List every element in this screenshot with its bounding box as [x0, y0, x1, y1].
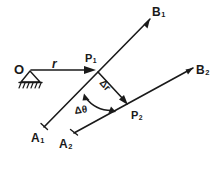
- label-point-p2-sub: 2: [138, 114, 142, 121]
- label-ray1-start-sub: 1: [40, 136, 45, 145]
- label-origin: O: [14, 63, 24, 76]
- support-hatch: [39, 83, 41, 88]
- label-point-p1-sub: 1: [92, 57, 96, 64]
- label-ray2-end-sub: 2: [205, 68, 210, 77]
- vector-r: [31, 66, 96, 74]
- physics-diagram: O r P1 P2 B1 B2 A1 A2 Δr Δθ: [0, 0, 220, 169]
- support-hatch: [19, 83, 21, 88]
- label-ray2-end-base: B: [196, 63, 205, 77]
- label-ray1-end-sub: 1: [161, 10, 166, 19]
- label-ray2-start-sub: 2: [68, 142, 73, 151]
- label-radius: r: [52, 58, 57, 70]
- arrowhead-r-icon: [84, 66, 96, 74]
- support-hatch: [27, 83, 29, 88]
- label-delta-theta: Δθ: [74, 104, 88, 116]
- label-ray1-start-a1: A1: [31, 132, 44, 145]
- label-point-p1: P1: [85, 53, 97, 65]
- support-hatch: [31, 83, 33, 88]
- label-ray1-start-base: A: [31, 131, 40, 145]
- label-ray2-end-b2: B2: [196, 64, 209, 77]
- arrowhead-b2-icon: [186, 68, 194, 75]
- label-ray1-end-b1: B1: [152, 6, 165, 19]
- label-ray1-end-base: B: [152, 5, 161, 19]
- angle-arc-delta-theta: [83, 94, 117, 114]
- support-hatch: [35, 83, 37, 88]
- support-hatch: [23, 83, 25, 88]
- arrowhead-b1-icon: [144, 19, 151, 29]
- label-point-p2: P2: [131, 110, 143, 122]
- label-ray2-start-a2: A2: [59, 138, 72, 151]
- arc-path: [86, 98, 113, 111]
- label-ray2-start-base: A: [59, 137, 68, 151]
- arrowhead-arc-start-icon: [83, 94, 90, 101]
